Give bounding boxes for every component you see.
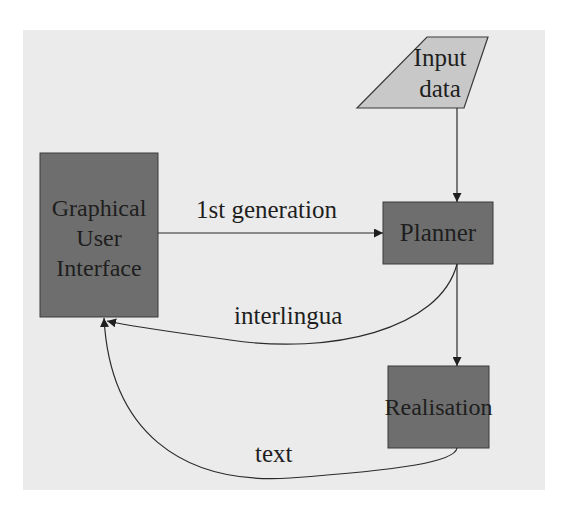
input-data-label: Input data bbox=[385, 42, 495, 104]
gui-label-line3: Interface bbox=[40, 253, 158, 283]
realisation-label: Realisation bbox=[383, 393, 494, 422]
gui-label-line1: Graphical bbox=[40, 193, 158, 223]
input-label-line2: data bbox=[385, 73, 495, 104]
gui-label: Graphical User Interface bbox=[40, 193, 158, 283]
planner-label: Planner bbox=[383, 218, 493, 247]
edge-label-interlingua: interlingua bbox=[234, 302, 342, 330]
edge-label-1st-generation: 1st generation bbox=[196, 196, 337, 224]
gui-label-line2: User bbox=[40, 223, 158, 253]
input-label-line1: Input bbox=[385, 42, 495, 73]
edge-label-text: text bbox=[255, 440, 293, 468]
